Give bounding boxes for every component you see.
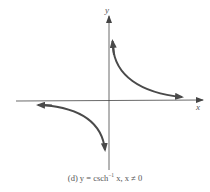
graph-canvas	[0, 0, 210, 192]
curve-negative-branch	[43, 105, 105, 150]
y-axis-label: y	[105, 5, 109, 15]
caption-prefix: (d) y = csch	[68, 173, 108, 183]
curve-negative-branch-start	[38, 105, 52, 106]
figure-caption: (d) y = csch−1 x, x ≠ 0	[0, 172, 210, 183]
curve-positive-branch	[113, 47, 182, 97]
x-axis-label: x	[196, 102, 200, 112]
curve-positive-branch-start	[113, 41, 115, 55]
x-axis	[16, 100, 203, 101]
caption-suffix: x, x ≠ 0	[114, 173, 142, 183]
